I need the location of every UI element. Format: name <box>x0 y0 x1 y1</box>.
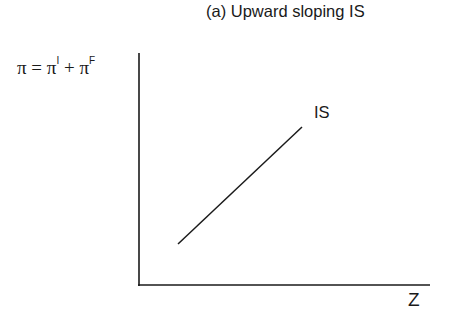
is-curve <box>178 127 302 244</box>
is-curve-label: IS <box>314 103 330 122</box>
x-axis-label: Z <box>408 289 420 311</box>
chart-plot <box>0 0 450 315</box>
